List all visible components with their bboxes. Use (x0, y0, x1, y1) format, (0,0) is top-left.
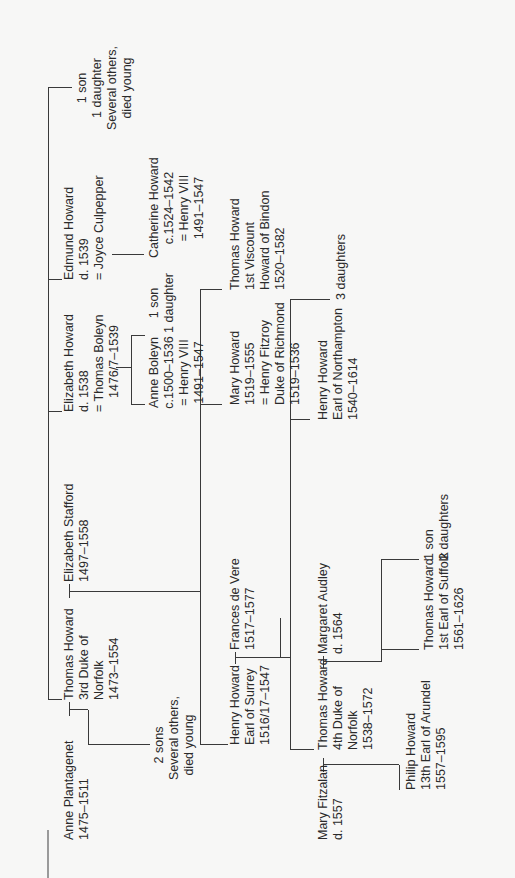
person-thomas-howard-3rd-duke: Thomas Howard 3rd Duke of Norfolk 1473–1… (62, 608, 122, 700)
drop-suffolk-siblings (381, 559, 419, 560)
person-anne-boleyn: Anne Boleyn c.1500–1536 = Henry VIII 149… (147, 335, 207, 410)
surrey-children-link (280, 618, 281, 658)
drop-henry-northampton (290, 419, 310, 420)
incoming-line (47, 830, 49, 878)
children-drop-1 (88, 744, 150, 745)
children-others-top: 1 son 1 daughter Several others, died yo… (75, 43, 135, 133)
drop-henry-surrey (200, 744, 228, 745)
children-suffolk-siblings: 1 son 2 daughters (422, 494, 452, 560)
person-edmund-howard: Edmund Howard d. 1539 = Joyce Culpepper (62, 175, 107, 280)
marriage-drop-2 (69, 591, 100, 592)
person-margaret-audley: Margaret Audley d. 1564 (316, 563, 346, 654)
drop-thomas-bindon (200, 289, 222, 290)
drop-three-daughters (290, 299, 330, 300)
person-catherine-howard: Catherine Howard c.1524–1542 = Henry VII… (147, 158, 207, 258)
drop-anne-boleyn (131, 404, 145, 405)
person-thomas-howard-bindon: Thomas Howard 1st Viscount Howard of Bin… (228, 191, 288, 290)
boleyn-bus (131, 336, 132, 405)
culpepper-drop (112, 254, 144, 255)
marriage-line-surrey (235, 652, 236, 664)
children-boleyn: 1 son 1 daughter (147, 268, 177, 338)
philip-link (399, 765, 400, 790)
marriage-drop-surrey (235, 657, 280, 658)
person-mary-fitzalan: Mary Fitzalan d. 1557 (316, 765, 346, 840)
drop-others-top (48, 87, 72, 88)
drop-edmund (48, 279, 62, 280)
person-philip-howard: Philip Howard 13th Earl of Arundel 1557–… (404, 680, 449, 790)
person-elizabeth-howard: Elizabeth Howard d. 1538 = Thomas Boleyn… (62, 314, 122, 412)
person-thomas-howard-suffolk: Thomas Howard 1st Earl of Suffolk 1561–1… (422, 552, 467, 650)
person-henry-howard-surrey: Henry Howard Earl of Surrey 1516/17–1547 (228, 665, 273, 745)
drop-thomas-3rd (48, 699, 62, 700)
marriage-drop-1 (69, 709, 88, 710)
drop-elizabeth-howard (48, 411, 62, 412)
gen1-bus-line (48, 88, 49, 700)
person-mary-howard: Mary Howard 1519–1555 = Henry Fitzroy Du… (228, 302, 303, 405)
children-2-sons: 2 sons Several others, died young (152, 710, 197, 780)
stafford-children-drop (100, 591, 200, 592)
person-henry-howard-northampton: Henry Howard Earl of Northampton 1540–16… (316, 308, 361, 420)
drop-suffolk (381, 649, 419, 650)
person-thomas-howard-4th-duke: Thomas Howard 4th Duke of Norfolk 1538–1… (316, 658, 376, 750)
drop-boleyn-children (131, 335, 145, 336)
audley-bus (381, 560, 382, 662)
gen3-bus-link (280, 657, 290, 658)
person-frances-de-vere: Frances de Vere 1517–1577 (228, 558, 258, 650)
person-elizabeth-stafford: Elizabeth Stafford 1497–1558 (62, 484, 92, 582)
children-three-daughters: 3 daughters (334, 234, 349, 300)
drop-thomas-4th (290, 749, 314, 750)
family-tree-diagram: Anne Plantagenet 1475–1511 Thomas Howard… (0, 0, 515, 878)
person-anne-plantagenet: Anne Plantagenet 1475–1511 (62, 741, 92, 840)
